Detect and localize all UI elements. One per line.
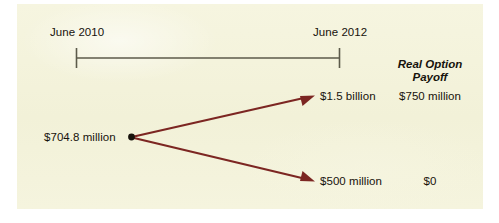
root-node-label: $704.8 million <box>44 131 116 144</box>
payoff-column-header: Real Option Payoff <box>382 58 478 83</box>
down-payoff-value: $0 <box>382 175 478 188</box>
branch-down-arrowhead <box>300 171 315 182</box>
timeline-start-label: June 2010 <box>50 26 104 39</box>
timeline-axis <box>77 48 340 68</box>
up-outcome-label: $1.5 billion <box>320 90 376 103</box>
root-node-dot <box>128 134 135 141</box>
timeline-end-label: June 2012 <box>313 26 367 39</box>
payoff-column-header-line1: Real Option <box>382 58 478 71</box>
down-outcome-label: $500 million <box>320 175 382 188</box>
branch-up-line <box>134 98 306 137</box>
branch-up-arrowhead <box>300 96 315 107</box>
tree-branches <box>134 96 315 182</box>
branch-down-line <box>134 138 306 179</box>
up-payoff-value: $750 million <box>382 90 478 103</box>
payoff-column-header-line2: Payoff <box>382 71 478 84</box>
